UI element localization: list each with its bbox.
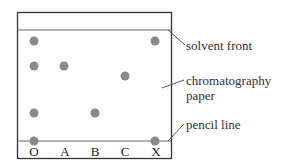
- column-label-b: B: [87, 145, 103, 159]
- label-paper-line2: paper: [186, 88, 215, 103]
- spot-o-3: [30, 109, 39, 118]
- column-label-c: C: [117, 145, 133, 159]
- column-label-o: O: [26, 145, 42, 159]
- spots: [30, 37, 160, 146]
- spot-a: [60, 62, 69, 71]
- label-solvent-front: solvent front: [186, 38, 252, 53]
- column-label-x: X: [148, 145, 164, 159]
- spot-b: [91, 109, 100, 118]
- spot-c: [121, 72, 130, 81]
- leader-paper: [162, 80, 184, 88]
- label-pencil-line: pencil line: [186, 117, 241, 132]
- leader-solvent-front: [168, 30, 185, 45]
- label-paper-line1: chromatography: [186, 73, 271, 88]
- column-label-a: A: [57, 145, 73, 159]
- leader-pencil-line: [168, 124, 184, 141]
- paper-outline: [18, 13, 172, 159]
- spot-x-1: [151, 37, 160, 46]
- spot-o-2: [30, 62, 39, 71]
- spot-o-1: [30, 37, 39, 46]
